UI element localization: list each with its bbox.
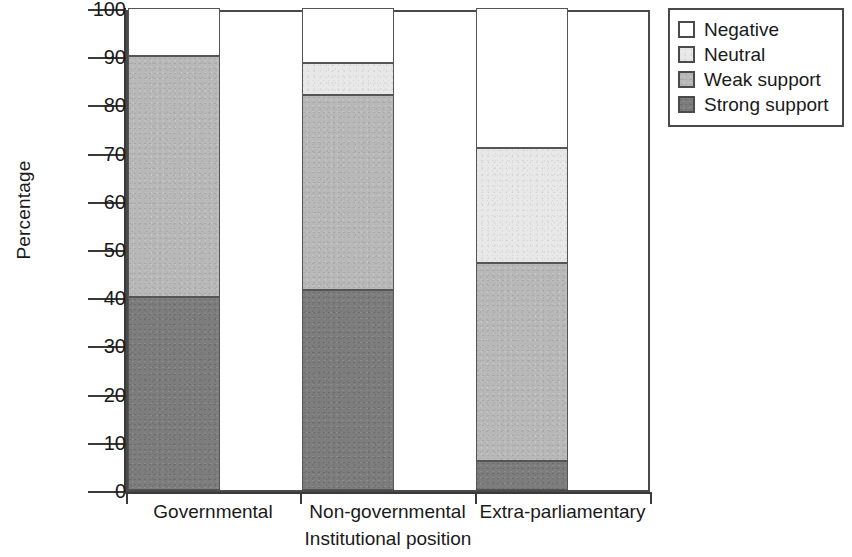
y-tick-label-50: 50 — [68, 240, 126, 260]
y-tick-label-90: 90 — [68, 47, 126, 67]
bar-segment-extra-parliamentary-weak-support[interactable] — [476, 263, 568, 461]
stacked-bar-governmental[interactable] — [128, 8, 220, 490]
y-tick-label-40: 40 — [68, 288, 126, 308]
bar-segment-non-governmental-negative[interactable] — [302, 8, 394, 63]
y-axis-title: Percentage — [10, 140, 38, 280]
legend-item-weak-support[interactable]: Weak support — [678, 67, 834, 92]
bar-segment-extra-parliamentary-negative[interactable] — [476, 8, 568, 148]
bar-segment-governmental-weak-support[interactable] — [128, 56, 220, 297]
x-tick-label-governmental: Governmental — [126, 500, 300, 524]
legend-label-negative: Negative — [704, 20, 779, 39]
legend-swatch-neutral-icon — [678, 46, 695, 63]
y-tick-label-0: 0 — [68, 481, 126, 501]
plot-area — [126, 10, 650, 492]
stacked-bar-chart-figure: Percentage 100 90 80 70 60 50 40 — [0, 0, 852, 557]
x-tick-label-non-governmental: Non-governmental — [300, 500, 475, 524]
legend-label-neutral: Neutral — [704, 45, 765, 64]
y-tick-label-60: 60 — [68, 192, 126, 212]
legend-swatch-strong-support-icon — [678, 96, 695, 113]
legend-item-strong-support[interactable]: Strong support — [678, 92, 834, 117]
chart-legend: Negative Neutral Weak support Strong sup… — [668, 8, 844, 127]
legend-swatch-negative-icon — [678, 21, 695, 38]
y-tick-label-10: 10 — [68, 433, 126, 453]
legend-item-neutral[interactable]: Neutral — [678, 42, 834, 67]
x-axis-line — [124, 492, 652, 494]
y-tick-label-100: 100 — [68, 0, 126, 19]
y-tick-label-20: 20 — [68, 385, 126, 405]
y-tick-label-80: 80 — [68, 95, 126, 115]
x-axis-title: Institutional position — [126, 528, 650, 550]
bar-segment-non-governmental-neutral[interactable] — [302, 63, 394, 94]
bar-segment-governmental-strong-support[interactable] — [128, 297, 220, 490]
bar-segment-non-governmental-weak-support[interactable] — [302, 95, 394, 290]
legend-swatch-weak-support-icon — [678, 71, 695, 88]
y-tick-label-70: 70 — [68, 144, 126, 164]
bar-segment-extra-parliamentary-strong-support[interactable] — [476, 461, 568, 490]
y-tick-label-30: 30 — [68, 336, 126, 356]
stacked-bar-extra-parliamentary[interactable] — [476, 8, 568, 490]
x-tick-right-edge — [650, 492, 652, 504]
bar-segment-extra-parliamentary-neutral[interactable] — [476, 148, 568, 264]
x-tick-label-extra-parliamentary: Extra-parliamentary — [475, 500, 650, 524]
bar-segment-non-governmental-strong-support[interactable] — [302, 290, 394, 490]
legend-label-weak-support: Weak support — [704, 70, 821, 89]
stacked-bar-non-governmental[interactable] — [302, 8, 394, 490]
legend-item-negative[interactable]: Negative — [678, 17, 834, 42]
bar-segment-governmental-negative[interactable] — [128, 8, 220, 56]
legend-label-strong-support: Strong support — [704, 95, 829, 114]
